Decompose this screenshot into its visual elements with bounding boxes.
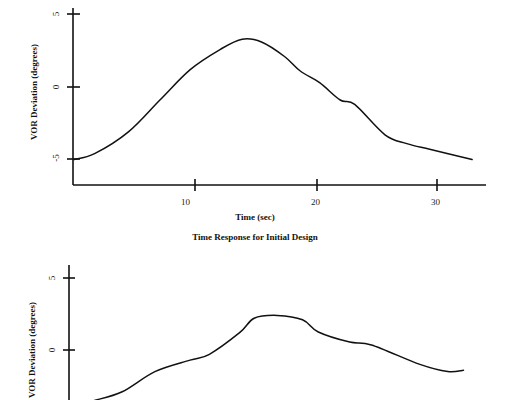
top-response-curve — [74, 39, 472, 160]
top-xtick-label-30: 30 — [431, 197, 440, 207]
bottom-chart-axes — [63, 265, 75, 400]
top-xtick-label-10: 10 — [181, 197, 190, 207]
top-y-axis-label: VOR Deviation (degrees) — [29, 32, 39, 152]
top-x-axis-label: Time (sec) — [180, 212, 330, 222]
bottom-response-curve — [94, 315, 463, 400]
top-xtick-label-20: 20 — [311, 197, 320, 207]
top-ytick-label-0: 0 — [51, 85, 61, 90]
top-chart-title: Time Response for Initial Design — [150, 232, 360, 242]
bottom-ytick-label-0: 0 — [47, 348, 57, 353]
bottom-ytick-label-5: 5 — [47, 276, 57, 281]
bottom-y-axis-label: VOR Deviation (degrees) — [27, 290, 37, 400]
top-ytick-label-5: 5 — [51, 12, 61, 17]
top-chart-axes — [67, 8, 486, 191]
top-ytick-label-neg5: -5 — [51, 154, 61, 162]
